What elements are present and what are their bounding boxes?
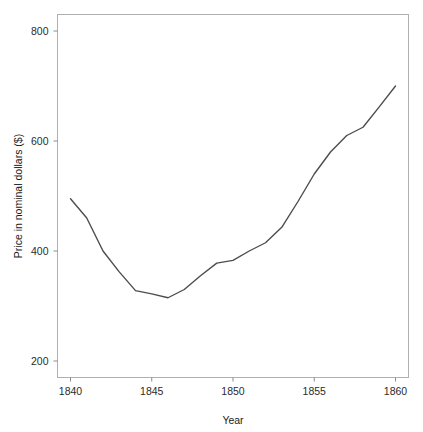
chart-canvas: 18401845185018551860 200400600800 Year P… bbox=[0, 0, 423, 432]
x-tick-label-1855: 1855 bbox=[303, 385, 327, 397]
x-axis-title: Year bbox=[222, 414, 244, 426]
x-tick-label-1845: 1845 bbox=[140, 385, 164, 397]
x-tick-label-1850: 1850 bbox=[221, 385, 245, 397]
y-axis-title: Price in nominal dollars ($) bbox=[12, 134, 24, 258]
line-chart: 18401845185018551860 200400600800 Year P… bbox=[0, 0, 423, 432]
y-tick-label-800: 800 bbox=[31, 25, 49, 37]
y-tick-label-600: 600 bbox=[31, 135, 49, 147]
y-tick-label-200: 200 bbox=[31, 355, 49, 367]
chart-background bbox=[0, 0, 423, 432]
x-tick-label-1840: 1840 bbox=[59, 385, 83, 397]
y-tick-label-400: 400 bbox=[31, 245, 49, 257]
x-tick-label-1860: 1860 bbox=[384, 385, 408, 397]
